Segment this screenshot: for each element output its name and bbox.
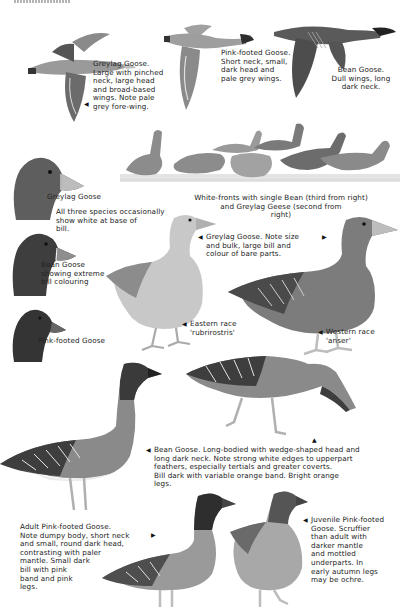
bean-standing-caption: Bean Goose. Long-bodied with wedge-shape… [154, 446, 400, 489]
pinkfooted-head-illustration [10, 302, 65, 362]
adult-pinkfooted-standing-illustration [90, 490, 240, 607]
greylag-head-caption: Greylag Goose [47, 193, 101, 202]
bean-flight-caption: Bean Goose. Dull wings, long dark neck. [325, 66, 397, 92]
bean-standing-illustration [0, 360, 162, 510]
cropped-header-text [14, 0, 70, 3]
field-guide-page: Greylag Goose. Large with pinched neck, … [0, 0, 401, 607]
white-fronted-flock-illustration [120, 124, 400, 186]
juvenile-pinkfooted-caption: Juvenile Pink-footed Goose. Scruffier th… [311, 516, 401, 585]
pinkfooted-head-caption: Pink-footed Goose [38, 337, 105, 346]
western-race-label: Western race 'anser' [326, 328, 396, 345]
pointer-arrow-icon: ▲ [312, 436, 317, 443]
juvenile-pinkfooted-standing-illustration [230, 488, 310, 607]
pointer-arrow-icon: ◀ [84, 100, 89, 107]
bean-feeding-illustration [186, 352, 358, 436]
